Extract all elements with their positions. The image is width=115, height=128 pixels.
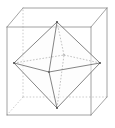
figure-container: Octahedron inscribed in a cube Wireframe… xyxy=(0,0,115,128)
cube-edge-depth-top-left xyxy=(7,8,23,27)
cube-edge-back-bottom-left-to-front-bottom-left xyxy=(7,97,23,115)
vertex-dot-back xyxy=(63,54,64,55)
cube-edge-depth-bottom-right xyxy=(91,97,107,115)
vertex-dot-left xyxy=(13,62,15,64)
cube-edge-depth-top-right xyxy=(91,8,107,27)
vertex-dot-top xyxy=(56,21,58,23)
vertex-dot-right xyxy=(99,62,101,64)
vertex-dot-bottom xyxy=(56,107,58,109)
octahedron-in-cube-diagram: Octahedron inscribed in a cube Wireframe… xyxy=(0,0,115,128)
vertex-dot-front xyxy=(48,71,50,73)
